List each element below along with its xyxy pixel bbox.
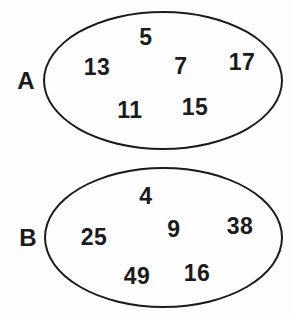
- set-a-label: A: [17, 69, 34, 93]
- set-a-item-7: 7: [174, 55, 187, 78]
- set-a-item-15: 15: [182, 96, 209, 119]
- set-a-item-13: 13: [84, 56, 111, 79]
- set-b-item-38: 38: [227, 215, 254, 238]
- set-a-item-11: 11: [117, 99, 142, 122]
- set-a-ellipse: [43, 11, 283, 150]
- set-diagram: A 5 13 7 17 11 15 B 4 25 9 38 49 16: [0, 0, 292, 315]
- set-b-item-25: 25: [81, 226, 108, 249]
- set-a-item-5: 5: [139, 26, 152, 49]
- set-b-label: B: [19, 226, 36, 250]
- set-b-item-49: 49: [124, 265, 151, 288]
- set-b-item-16: 16: [184, 262, 211, 285]
- set-a-item-17: 17: [229, 51, 256, 74]
- set-b-item-9: 9: [167, 218, 180, 241]
- set-b-item-4: 4: [139, 185, 152, 208]
